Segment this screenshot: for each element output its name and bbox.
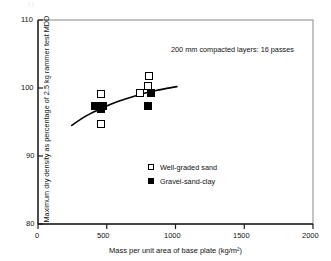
legend-label-gravel-sand-clay: Gravel-sand-clay	[160, 177, 215, 186]
open-square-data-point	[97, 120, 105, 128]
chart-annotation: 200 mm compacted layers: 16 passes	[171, 45, 294, 54]
open-square-data-point	[97, 90, 105, 98]
legend-item-well-graded-sand: Well-graded sand	[148, 160, 217, 174]
x-tick-label-500: 500	[97, 231, 110, 240]
open-square-data-point	[145, 72, 153, 80]
y-tick-label-100: 100	[21, 83, 34, 92]
filled-square-marker-icon	[148, 178, 154, 184]
open-square-marker-icon	[148, 164, 154, 170]
y-tick-label-90: 90	[26, 151, 34, 160]
x-tick-label-1500: 1500	[233, 231, 250, 240]
x-tick-label-1000: 1000	[164, 231, 181, 240]
legend-label-well-graded-sand: Well-graded sand	[160, 163, 217, 172]
y-tick-label-80: 80	[26, 219, 34, 228]
x-axis-title: Mass per unit area of base plate (kg/m²)	[38, 246, 313, 255]
filled-square-data-point	[99, 102, 107, 110]
y-axis-title: Maximum dry density as percentage of 2.5…	[42, 23, 51, 223]
legend-item-gravel-sand-clay: Gravel-sand-clay	[148, 174, 217, 188]
open-square-data-point	[136, 89, 144, 97]
chart-legend: Well-graded sand Gravel-sand-clay	[148, 160, 217, 188]
filled-square-data-point	[147, 89, 155, 97]
chart-figure: ( ) 110 100 90 80 0 500 1000 1500 2000	[0, 0, 331, 261]
filled-square-data-point	[144, 102, 152, 110]
x-tick-label-0: 0	[35, 231, 39, 240]
x-axis-ticks	[38, 224, 313, 229]
x-tick-label-2000: 2000	[302, 231, 319, 240]
y-tick-label-110: 110	[21, 15, 33, 24]
